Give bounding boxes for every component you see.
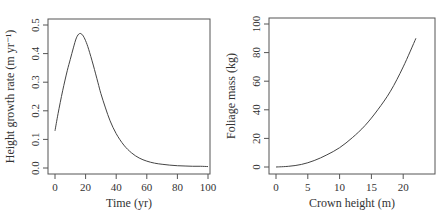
x-tick-label: 20 bbox=[398, 181, 410, 193]
y-tick-label: 0.2 bbox=[29, 104, 41, 118]
y-tick-label: 0.3 bbox=[29, 75, 41, 89]
data-line bbox=[55, 33, 208, 166]
y-tick-label: 0 bbox=[250, 164, 262, 170]
y-tick-label: 20 bbox=[250, 132, 262, 144]
foliage-mass-panel: 05101520020406080100Crown height (m)Foli… bbox=[224, 15, 435, 210]
x-tick-label: 0 bbox=[273, 181, 279, 193]
x-tick-label: 15 bbox=[366, 181, 378, 193]
x-axis-label: Crown height (m) bbox=[309, 196, 395, 210]
height-growth-panel: 0204060801000.00.10.20.30.40.5Time (yr)H… bbox=[3, 18, 217, 210]
y-tick-label: 80 bbox=[250, 47, 262, 59]
x-axis-label: Time (yr) bbox=[106, 196, 152, 210]
chart-figure: 0204060801000.00.10.20.30.40.5Time (yr)H… bbox=[0, 0, 442, 219]
x-tick-label: 100 bbox=[200, 181, 217, 193]
x-tick-label: 20 bbox=[80, 181, 92, 193]
y-tick-label: 60 bbox=[250, 75, 262, 87]
x-tick-label: 0 bbox=[52, 181, 58, 193]
y-tick-label: 0.4 bbox=[29, 46, 41, 60]
y-tick-label: 0.1 bbox=[29, 133, 41, 147]
x-tick-label: 60 bbox=[141, 181, 153, 193]
y-tick-label: 100 bbox=[250, 15, 262, 32]
plot-frame bbox=[269, 18, 435, 174]
x-tick-label: 10 bbox=[334, 181, 346, 193]
x-tick-label: 80 bbox=[172, 181, 184, 193]
y-tick-label: 40 bbox=[250, 104, 262, 116]
y-axis-label: Foliage mass (kg) bbox=[224, 53, 238, 139]
x-tick-label: 5 bbox=[305, 181, 311, 193]
x-tick-label: 40 bbox=[111, 181, 123, 193]
y-tick-label: 0.5 bbox=[29, 18, 41, 32]
data-line bbox=[276, 38, 416, 167]
y-axis-label: Height growth rate (m yr⁻¹) bbox=[3, 30, 17, 164]
y-tick-label: 0.0 bbox=[29, 161, 41, 175]
